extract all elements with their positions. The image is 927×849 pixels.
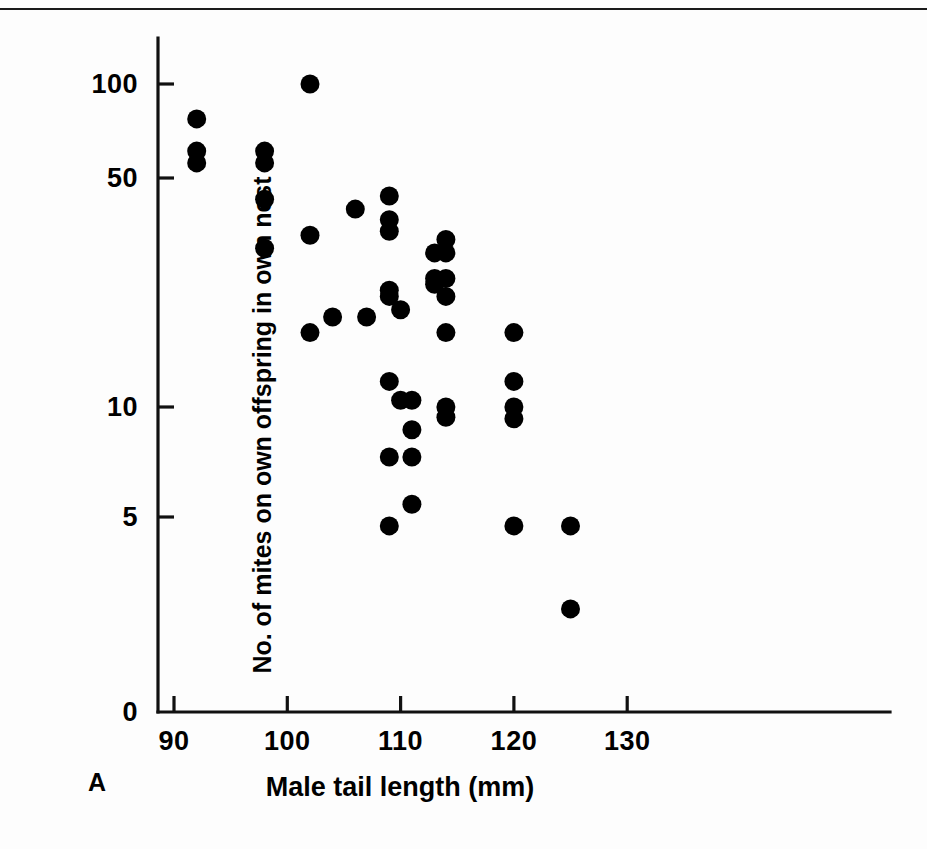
data-point <box>504 409 523 428</box>
y-tick-label-5: 5 <box>40 502 138 533</box>
y-tick-label-10: 10 <box>40 392 138 423</box>
y-tick-label-0: 0 <box>40 697 138 728</box>
data-point <box>402 495 421 514</box>
data-point <box>402 391 421 410</box>
figure-panel-a: 051050100 90100110120130 No. of mites on… <box>0 0 927 849</box>
x-tick-label-130: 130 <box>604 726 651 757</box>
plot-area: 051050100 90100110120130 <box>0 0 927 849</box>
data-point <box>504 372 523 391</box>
data-point <box>380 187 399 206</box>
data-point <box>187 153 206 172</box>
data-point <box>436 269 455 288</box>
data-point <box>436 408 455 427</box>
x-tick-label-100: 100 <box>264 726 311 757</box>
data-point <box>561 599 580 618</box>
data-point <box>323 308 342 327</box>
data-point <box>504 323 523 342</box>
panel-label: A <box>88 768 106 797</box>
y-tick-label-50: 50 <box>40 163 138 194</box>
data-points-group <box>187 75 580 619</box>
data-point <box>187 109 206 128</box>
data-point <box>380 448 399 467</box>
x-tick-label-110: 110 <box>378 726 423 757</box>
y-axis-title: No. of mites on own offspring in own nes… <box>248 176 277 673</box>
data-point <box>301 226 320 245</box>
scatter-plot-svg <box>0 0 927 849</box>
data-point <box>402 420 421 439</box>
data-point <box>436 287 455 306</box>
data-point <box>436 243 455 262</box>
x-tick-label-120: 120 <box>491 726 538 757</box>
data-point <box>255 153 274 172</box>
data-point <box>346 200 365 219</box>
y-tick-label-100: 100 <box>40 69 138 100</box>
data-point <box>504 516 523 535</box>
x-tick-label-90: 90 <box>158 726 189 757</box>
data-point <box>301 323 320 342</box>
data-point <box>380 516 399 535</box>
x-axis-title: Male tail length (mm) <box>266 772 535 803</box>
data-point <box>301 75 320 94</box>
data-point <box>357 308 376 327</box>
data-point <box>380 222 399 241</box>
data-point <box>561 516 580 535</box>
data-point <box>402 448 421 467</box>
data-point <box>391 300 410 319</box>
data-point <box>380 372 399 391</box>
data-point <box>436 323 455 342</box>
